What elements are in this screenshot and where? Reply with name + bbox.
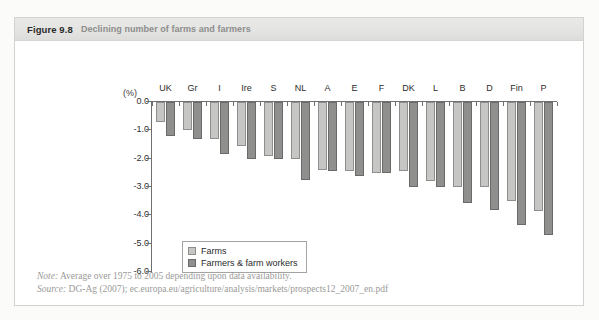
bar-group: [476, 102, 503, 272]
x-axis-label-b: B: [459, 83, 465, 93]
chart-legend: Farms Farmers & farm workers: [182, 241, 307, 273]
bar-farms-uk: [156, 102, 166, 122]
bar-group: [341, 102, 368, 272]
figure-title-bar: Figure 9.8 Declining number of farms and…: [15, 18, 583, 41]
bar-farmers-dk: [409, 102, 419, 187]
bar-farms-fin: [507, 102, 517, 201]
x-axis-tick: [557, 102, 558, 106]
bar-group: [368, 102, 395, 272]
legend-label-farms: Farms: [201, 246, 227, 256]
bar-farmers-a: [328, 102, 338, 171]
x-axis-label-e: E: [351, 83, 357, 93]
bar-farmers-gr: [193, 102, 203, 139]
bar-farmers-s: [274, 102, 284, 159]
x-axis-label-d: D: [486, 83, 493, 93]
bar-group: [314, 102, 341, 272]
legend-swatch-icon-farmers: [188, 259, 196, 267]
bar-farmers-nl: [301, 102, 311, 180]
bar-group: [422, 102, 449, 272]
bar-farmers-ire: [247, 102, 257, 159]
bar-farms-f: [372, 102, 382, 173]
legend-item-farms: Farms: [188, 245, 298, 257]
figure-page: Figure 9.8 Declining number of farms and…: [0, 0, 599, 320]
x-axis-label-p: P: [540, 83, 546, 93]
bar-farmers-i: [220, 102, 230, 154]
x-axis-label-a: A: [324, 83, 330, 93]
bar-farmers-p: [544, 102, 554, 235]
note-label: Note:: [37, 271, 58, 281]
x-axis-label-uk: UK: [159, 83, 172, 93]
bar-farmers-l: [436, 102, 446, 187]
x-axis-label-l: L: [433, 83, 438, 93]
x-axis-label-s: S: [270, 83, 276, 93]
x-axis-label-dk: DK: [402, 83, 415, 93]
bar-farms-i: [210, 102, 220, 139]
legend-label-farmers: Farmers & farm workers: [201, 258, 298, 268]
x-axis-label-nl: NL: [295, 83, 307, 93]
x-axis-label-gr: Gr: [188, 83, 198, 93]
bar-group: [503, 102, 530, 272]
figure-footnotes: Note: Average over 1975 to 2005 dependin…: [37, 270, 557, 296]
chart-canvas: (%) 0.0-1.0-2.0-3.0-4.0-5.0-6.0 UKGrIIre…: [15, 42, 583, 262]
bar-group: [152, 102, 179, 272]
bar-farms-d: [480, 102, 490, 187]
bar-farmers-d: [490, 102, 500, 210]
x-axis-category-labels: UKGrIIreSNLAEFDKLBDFinP: [152, 83, 557, 97]
figure-source: Source: DG-Ag (2007); ec.europa.eu/agric…: [37, 283, 557, 296]
bar-farms-e: [345, 102, 355, 171]
bar-farmers-b: [463, 102, 473, 203]
bar-farms-l: [426, 102, 436, 181]
figure-frame: Figure 9.8 Declining number of farms and…: [14, 17, 584, 306]
source-text: DG-Ag (2007); ec.europa.eu/agriculture/a…: [69, 284, 388, 294]
figure-title: Declining number of farms and farmers: [81, 24, 251, 34]
bar-farms-s: [264, 102, 274, 156]
bar-farms-a: [318, 102, 328, 170]
bar-farmers-fin: [517, 102, 527, 225]
bar-farms-b: [453, 102, 463, 187]
figure-number: Figure 9.8: [27, 24, 73, 35]
x-axis-label-i: I: [218, 83, 221, 93]
bar-farmers-uk: [166, 102, 176, 136]
bar-group: [395, 102, 422, 272]
bar-farms-nl: [291, 102, 301, 159]
bar-group: [449, 102, 476, 272]
bar-farms-gr: [183, 102, 193, 130]
bar-group: [530, 102, 557, 272]
legend-swatch-icon-farms: [188, 247, 196, 255]
bar-farms-dk: [399, 102, 409, 171]
bar-farmers-f: [382, 102, 392, 173]
x-axis-label-f: F: [379, 83, 385, 93]
bar-farmers-e: [355, 102, 365, 176]
y-axis-tick-labels: 0.0-1.0-2.0-3.0-4.0-5.0-6.0: [119, 101, 149, 271]
legend-item-farmers: Farmers & farm workers: [188, 257, 298, 269]
y-axis-unit-label: (%): [123, 88, 137, 98]
x-axis-label-ire: Ire: [241, 83, 252, 93]
note-text: Average over 1975 to 2005 depending upon…: [60, 271, 292, 281]
source-label: Source:: [37, 284, 66, 294]
figure-note: Note: Average over 1975 to 2005 dependin…: [37, 270, 557, 283]
bar-farms-p: [534, 102, 544, 211]
x-axis-label-fin: Fin: [510, 83, 523, 93]
bar-farms-ire: [237, 102, 247, 146]
